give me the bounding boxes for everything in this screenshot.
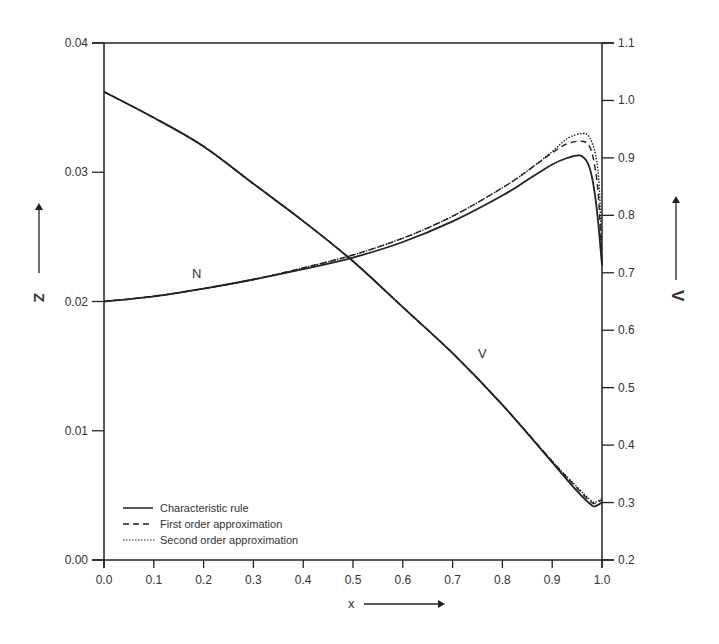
y-right-tick-label: 1.0 bbox=[618, 93, 635, 107]
arrowhead-icon bbox=[672, 196, 680, 203]
x-tick-label: 0.1 bbox=[145, 573, 162, 587]
arrowhead-icon bbox=[438, 600, 445, 608]
x-tick-label: 1.0 bbox=[594, 573, 611, 587]
x-axis-title: x bbox=[348, 596, 445, 611]
x-tick-label: 0.6 bbox=[394, 573, 411, 587]
y-left-tick-label: 0.02 bbox=[65, 295, 89, 309]
legend-label-characteristic: Characteristic rule bbox=[160, 502, 249, 514]
legend: Characteristic rule First order approxim… bbox=[123, 502, 298, 546]
arrowhead-icon bbox=[35, 203, 43, 210]
x-tick-label: 0.7 bbox=[444, 573, 461, 587]
x-tick-label: 0.4 bbox=[295, 573, 312, 587]
y-right-tick-label: 1.1 bbox=[618, 36, 635, 50]
curve-n-dashed bbox=[104, 141, 602, 301]
y-left-tick-label: 0.03 bbox=[65, 165, 89, 179]
y-right-tick-label: 0.9 bbox=[618, 151, 635, 165]
legend-label-first-order: First order approximation bbox=[160, 518, 282, 530]
curve-label-v: V bbox=[478, 346, 487, 361]
y-right-tick-label: 0.8 bbox=[618, 208, 635, 222]
y-right-tick-label: 0.7 bbox=[618, 266, 635, 280]
curve-v-solid bbox=[104, 92, 602, 507]
y-right-axis-title: V bbox=[668, 196, 687, 302]
plot-curves bbox=[104, 92, 602, 507]
y-left-axis-title: Z bbox=[31, 203, 48, 302]
y-right-tick-label: 0.6 bbox=[618, 323, 635, 337]
x-tick-label: 0.9 bbox=[544, 573, 561, 587]
curve-v-dashed bbox=[104, 92, 602, 504]
x-tick-label: 0.5 bbox=[345, 573, 362, 587]
y-right-tick-label: 0.3 bbox=[618, 496, 635, 510]
y-right-tick-label: 0.2 bbox=[618, 553, 635, 567]
y-right-tick-label: 0.4 bbox=[618, 438, 635, 452]
y-right-tick-label: 0.5 bbox=[618, 381, 635, 395]
curve-n-dotted bbox=[104, 133, 602, 301]
axes: 0.00.10.20.30.40.50.60.70.80.91.00.000.0… bbox=[65, 36, 635, 587]
curve-n-solid bbox=[104, 155, 602, 301]
curve-label-n: N bbox=[192, 266, 201, 281]
x-tick-label: 0.3 bbox=[245, 573, 262, 587]
chart: 0.00.10.20.30.40.50.60.70.80.91.00.000.0… bbox=[0, 0, 719, 644]
y-left-label: Z bbox=[31, 293, 48, 302]
y-left-tick-label: 0.00 bbox=[65, 553, 89, 567]
x-label: x bbox=[348, 596, 355, 611]
y-left-tick-label: 0.01 bbox=[65, 424, 89, 438]
legend-label-second-order: Second order approximation bbox=[160, 534, 298, 546]
y-left-tick-label: 0.04 bbox=[65, 36, 89, 50]
x-tick-label: 0.8 bbox=[494, 573, 511, 587]
y-right-label: V bbox=[668, 290, 687, 302]
curve-v-dotted bbox=[104, 92, 602, 503]
x-tick-label: 0.0 bbox=[96, 573, 113, 587]
x-tick-label: 0.2 bbox=[195, 573, 212, 587]
